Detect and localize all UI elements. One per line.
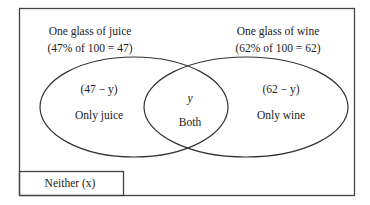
only-juice-label: Only juice [75,108,123,122]
juice-set-subtitle: (47% of 100 = 47) [47,41,132,55]
wine-ellipse [144,57,348,157]
neither-label: Neither (x) [45,176,96,190]
both-label: Both [179,115,201,129]
juice-set-title: One glass of juice [49,24,132,38]
wine-set-title: One glass of wine [237,24,320,38]
only-wine-label: Only wine [257,108,305,122]
juice-ellipse [40,57,228,157]
only-juice-value: (47 − y) [80,82,117,96]
wine-set-subtitle: (62% of 100 = 62) [235,41,320,55]
only-wine-value: (62 − y) [262,82,299,96]
both-value: y [187,91,192,105]
